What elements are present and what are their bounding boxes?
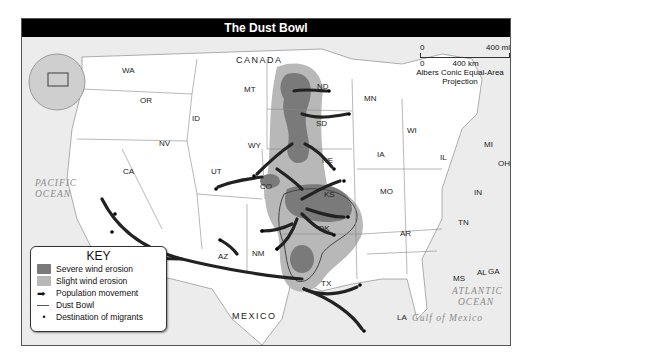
dust-bowl-map: CANADA MEXICO PACIFIC OCEAN ATLANTIC OCE…	[21, 18, 511, 346]
arrow-icon: ➡	[37, 288, 51, 299]
svg-text:OCEAN: OCEAN	[458, 297, 494, 307]
dot-icon: •	[37, 312, 51, 322]
svg-text:OR: OR	[140, 96, 152, 105]
svg-text:IL: IL	[440, 153, 447, 162]
scale-km-end: 400 km	[452, 59, 478, 68]
svg-text:OH: OH	[498, 159, 510, 168]
svg-text:MN: MN	[364, 94, 377, 103]
svg-text:IA: IA	[377, 150, 385, 159]
scale-mi-start: 0	[420, 43, 424, 52]
svg-text:TN: TN	[458, 218, 469, 227]
locator-globe-icon	[29, 54, 85, 110]
svg-text:ATLANTIC: ATLANTIC	[451, 286, 503, 296]
severe-swatch	[37, 264, 51, 274]
svg-text:ID: ID	[192, 114, 200, 123]
svg-text:CO: CO	[260, 182, 272, 191]
svg-text:PACIFIC: PACIFIC	[34, 178, 77, 188]
line-icon	[37, 305, 49, 306]
key-item-destination: •Destination of migrants	[31, 311, 166, 323]
svg-text:AR: AR	[400, 229, 411, 238]
scale-mi-end: 400 mi	[486, 43, 510, 52]
svg-text:GA: GA	[488, 267, 500, 276]
key-title: KEY	[31, 249, 166, 263]
svg-text:Gulf of Mexico: Gulf of Mexico	[412, 313, 483, 323]
slight-swatch	[37, 276, 51, 286]
svg-text:NV: NV	[159, 139, 171, 148]
svg-text:IN: IN	[474, 188, 482, 197]
svg-text:CANADA: CANADA	[236, 55, 283, 65]
svg-text:MEXICO: MEXICO	[232, 311, 277, 321]
svg-text:WA: WA	[122, 66, 135, 75]
svg-text:LA: LA	[397, 313, 407, 322]
key-label: Destination of migrants	[56, 312, 143, 322]
svg-text:OK: OK	[318, 224, 330, 233]
svg-text:TX: TX	[321, 279, 332, 288]
map-key: KEY Severe wind erosion Slight wind eros…	[30, 246, 167, 332]
svg-text:SD: SD	[316, 119, 327, 128]
key-label: Population movement	[56, 288, 138, 298]
svg-text:NM: NM	[252, 249, 265, 258]
key-label: Slight wind erosion	[56, 276, 127, 286]
severe-erosion-area	[290, 245, 314, 273]
scale-bar: 0400 mi 0400 km Albers Conic Equal-Area …	[420, 43, 510, 86]
svg-text:MO: MO	[380, 187, 393, 196]
svg-text:WY: WY	[248, 141, 262, 150]
key-item-dustbowl: Dust Bowl	[31, 299, 166, 311]
scale-bar-graphic	[420, 53, 510, 58]
svg-text:WI: WI	[407, 126, 417, 135]
projection-label: Albers Conic Equal-Area	[410, 68, 510, 77]
svg-text:ND: ND	[317, 82, 329, 91]
svg-text:MI: MI	[484, 140, 493, 149]
svg-text:MS: MS	[453, 274, 465, 283]
svg-text:UT: UT	[211, 167, 222, 176]
svg-text:MT: MT	[244, 85, 256, 94]
map-title: The Dust Bowl	[22, 19, 510, 37]
svg-text:AZ: AZ	[218, 252, 228, 261]
svg-text:AL: AL	[477, 268, 487, 277]
svg-text:KS: KS	[324, 190, 335, 199]
key-item-movement: ➡Population movement	[31, 287, 166, 299]
svg-text:CA: CA	[123, 167, 135, 176]
key-label: Dust Bowl	[56, 300, 94, 310]
svg-text:OCEAN: OCEAN	[35, 189, 71, 199]
svg-text:NE: NE	[322, 156, 333, 165]
key-item-slight: Slight wind erosion	[31, 275, 166, 287]
key-label: Severe wind erosion	[56, 264, 133, 274]
projection-label-2: Projection	[410, 77, 510, 86]
scale-km-start: 0	[420, 59, 424, 68]
key-item-severe: Severe wind erosion	[31, 263, 166, 275]
